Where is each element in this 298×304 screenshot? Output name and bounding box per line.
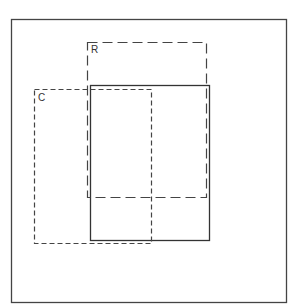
outer-frame	[12, 20, 287, 303]
label-r: R	[91, 44, 98, 55]
label-c: C	[38, 92, 45, 103]
rectangle-r	[88, 43, 207, 198]
solid-rectangle	[91, 86, 210, 241]
rectangle-c	[35, 90, 152, 244]
overlap-diagram: R C	[0, 0, 298, 304]
